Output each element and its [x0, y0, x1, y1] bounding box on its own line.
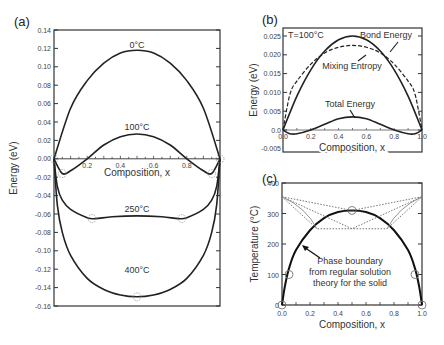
svg-text:0.14: 0.14 — [37, 27, 51, 34]
svg-text:0.10: 0.10 — [37, 63, 51, 70]
svg-text:-0.08: -0.08 — [35, 229, 51, 236]
annotation-line-3: theory for the solid — [313, 278, 387, 288]
svg-text:-0.12: -0.12 — [35, 266, 51, 273]
svg-text:0.8: 0.8 — [389, 310, 399, 317]
svg-text:0.00: 0.00 — [37, 155, 51, 162]
y-label-a: Energy (eV) — [8, 141, 19, 194]
svg-text:1.0: 1.0 — [417, 133, 427, 140]
svg-text:0.6: 0.6 — [361, 310, 371, 317]
svg-text:0.010: 0.010 — [263, 89, 281, 96]
x-label-a: Composition, x — [104, 167, 170, 178]
panel-c: 40030020010000.00.20.40.60.81.0 Temperat… — [249, 180, 427, 330]
label-250c: 250°C — [124, 204, 150, 214]
svg-text:-0.10: -0.10 — [35, 247, 51, 254]
svg-text:0.015: 0.015 — [263, 70, 281, 77]
figure: (a) (b) (c) 0.140.120.100.080.060.040.02… — [0, 0, 444, 345]
label-100c: 100°C — [124, 122, 150, 132]
y-label-c: Temperature (°C) — [249, 206, 260, 283]
svg-text:0.025: 0.025 — [263, 33, 281, 40]
curve-400C — [54, 159, 220, 297]
svg-text:-0.02: -0.02 — [35, 174, 51, 181]
panel-label-b: (b) — [262, 12, 278, 27]
svg-text:300: 300 — [267, 211, 279, 218]
svg-text:0.2: 0.2 — [82, 162, 92, 169]
curve-0C — [54, 50, 220, 159]
curves-b — [283, 36, 422, 134]
svg-text:0.8: 0.8 — [389, 133, 399, 140]
label-total-energy: Total Energy — [325, 99, 376, 109]
svg-text:400: 400 — [267, 180, 279, 187]
svg-text:-0.16: -0.16 — [35, 303, 51, 310]
panel-b: 0.0250.0200.0150.0100.0050.0-0.0050.00.2… — [248, 28, 427, 153]
svg-text:0.4: 0.4 — [334, 133, 344, 140]
svg-text:0.12: 0.12 — [37, 45, 51, 52]
svg-text:0.8: 0.8 — [182, 162, 192, 169]
svg-text:0.02: 0.02 — [37, 137, 51, 144]
label-bond-energy: Bond Energy — [360, 30, 413, 40]
svg-text:200: 200 — [267, 241, 279, 248]
curves-c — [278, 197, 426, 309]
svg-text:-0.14: -0.14 — [35, 284, 51, 291]
annotation-line-1: Phase boundary — [317, 256, 383, 266]
panel-a: 0.140.120.100.080.060.040.020.00-0.02-0.… — [8, 27, 224, 310]
svg-text:0.2: 0.2 — [306, 133, 316, 140]
y-label-b: Energy (eV) — [248, 63, 259, 116]
label-400c: 400°C — [124, 265, 150, 275]
svg-text:-0.04: -0.04 — [35, 192, 51, 199]
svg-text:0.6: 0.6 — [362, 133, 372, 140]
svg-text:-0.06: -0.06 — [35, 211, 51, 218]
svg-text:0.08: 0.08 — [37, 82, 51, 89]
x-label-c: Composition, x — [319, 319, 385, 330]
label-0c: 0°C — [129, 40, 145, 50]
plot-frame-b — [283, 28, 422, 152]
panel-label-a: (a) — [14, 14, 30, 29]
ticks-b: 0.0250.0200.0150.0100.0050.0-0.0050.00.2… — [261, 33, 427, 153]
svg-text:0.06: 0.06 — [37, 100, 51, 107]
x-label-b: Composition, x — [319, 142, 385, 153]
svg-text:0.04: 0.04 — [37, 119, 51, 126]
annotation-line-2: from regular solution — [309, 267, 391, 277]
svg-text:1.0: 1.0 — [417, 310, 427, 317]
svg-text:0.2: 0.2 — [305, 310, 315, 317]
label-mixing-entropy: Mixing Entropy — [322, 61, 382, 71]
svg-text:0.005: 0.005 — [263, 108, 281, 115]
svg-text:100: 100 — [267, 272, 279, 279]
svg-text:0.020: 0.020 — [263, 51, 281, 58]
svg-text:-0.005: -0.005 — [261, 145, 281, 152]
svg-text:0.0: 0.0 — [278, 133, 288, 140]
temperature-annotation: T=100°C — [288, 30, 324, 40]
svg-text:0.4: 0.4 — [333, 310, 343, 317]
svg-text:0.0: 0.0 — [277, 310, 287, 317]
